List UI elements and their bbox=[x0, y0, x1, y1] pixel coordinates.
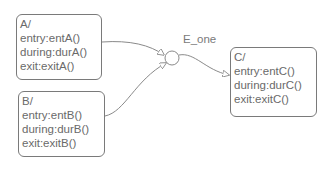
during-action: during:durB() bbox=[22, 122, 104, 136]
state-b[interactable]: B/ entry:entB() during:durB() exit:exitB… bbox=[18, 91, 105, 157]
state-name: B/ bbox=[22, 94, 104, 108]
connective-junction[interactable] bbox=[165, 51, 179, 65]
state-name: A/ bbox=[20, 17, 101, 31]
entry-action: entry:entA() bbox=[20, 31, 101, 45]
entry-action: entry:entB() bbox=[22, 108, 104, 122]
transition-junction-to-c[interactable] bbox=[179, 55, 229, 75]
transition-b-to-junction[interactable] bbox=[105, 63, 166, 116]
exit-action: exit:exitB() bbox=[22, 136, 104, 150]
exit-action: exit:exitA() bbox=[20, 59, 101, 73]
transition-a-to-junction[interactable] bbox=[102, 42, 164, 55]
during-action: during:durA() bbox=[20, 45, 101, 59]
state-c[interactable]: C/ entry:entC() during:durC() exit:exitC… bbox=[230, 47, 317, 117]
exit-action: exit:exitC() bbox=[234, 92, 316, 106]
state-a[interactable]: A/ entry:entA() during:durA() exit:exitA… bbox=[16, 14, 102, 80]
transition-label-e-one[interactable]: E_one bbox=[183, 33, 216, 45]
entry-action: entry:entC() bbox=[234, 64, 316, 78]
during-action: during:durC() bbox=[234, 78, 316, 92]
state-name: C/ bbox=[234, 50, 316, 64]
